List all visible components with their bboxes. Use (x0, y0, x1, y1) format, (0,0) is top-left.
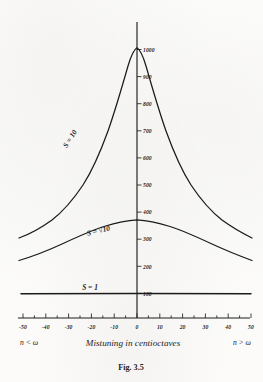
y-tick-label: 400 (142, 209, 152, 215)
x-tick-label: 20 (179, 324, 186, 330)
curve-s-10 (19, 48, 252, 238)
curve-label-s-sqrt10-group: S = √10 (86, 223, 111, 237)
x-axis-label: Mistuning in centioctaves (85, 338, 181, 348)
x-tick-label: 50 (248, 324, 254, 330)
left-inequality-note: n < ω (20, 338, 39, 347)
figure-caption: Fig. 3.5 (118, 363, 144, 372)
y-tick-label: 300 (142, 236, 152, 242)
x-tick-label: 30 (202, 324, 209, 330)
x-tick-label: -30 (65, 324, 73, 330)
x-axis-tick-labels: -50 -40 -30 -20 -10 0 10 20 30 40 50 (19, 324, 254, 330)
y-tick-label: 800 (143, 101, 152, 107)
x-tick-label: -50 (19, 324, 27, 330)
x-tick-label: 40 (224, 324, 231, 330)
x-tick-label: -10 (110, 324, 118, 330)
curve-label-s-1: S = 1 (82, 283, 98, 292)
x-axis-ticks (23, 314, 251, 319)
curve-label-s-sqrt10: S = √10 (86, 223, 111, 237)
y-tick-label: 500 (143, 182, 152, 188)
y-axis-ticks (137, 50, 142, 294)
curve-label-s-10-group: S = 10 (61, 128, 79, 149)
y-tick-label: 600 (143, 155, 152, 161)
y-tick-label: 900 (143, 74, 152, 80)
curve-s-sqrt10 (19, 220, 252, 261)
x-tick-label: 10 (157, 324, 163, 330)
right-inequality-note: n > ω (233, 338, 252, 347)
y-tick-label: 200 (142, 264, 152, 270)
chart-svg: 100 200 300 400 500 600 700 800 900 1000 (0, 0, 263, 382)
curve-label-s-10: S = 10 (61, 128, 79, 149)
x-tick-label: -40 (42, 324, 50, 330)
x-tick-label: 0 (136, 324, 139, 330)
y-tick-label: 1000 (143, 47, 155, 53)
figure-container: 100 200 300 400 500 600 700 800 900 1000 (0, 0, 263, 382)
y-tick-label: 700 (143, 128, 152, 134)
y-axis-tick-labels: 100 200 300 400 500 600 700 800 900 1000 (142, 47, 155, 297)
x-tick-label: -20 (88, 324, 96, 330)
